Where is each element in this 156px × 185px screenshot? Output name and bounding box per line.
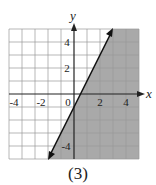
y-axis-label: y (68, 8, 76, 23)
x-tick-label: -4 (9, 96, 19, 108)
x-axis-label: x (145, 86, 152, 101)
x-tick-label: 4 (123, 96, 129, 108)
x-tick-label: 0 (65, 96, 71, 108)
y-tick-label: -4 (61, 140, 71, 152)
x-tick-label: -2 (36, 96, 45, 108)
y-axis-arrow-icon (71, 23, 77, 31)
y-tick-label: 2 (64, 62, 70, 74)
y-tick-label: 4 (64, 36, 70, 48)
x-tick-label: 2 (97, 96, 103, 108)
x-axis-arrow-icon (137, 91, 145, 97)
figure-caption: (3) (0, 164, 156, 184)
graph: x y -4 -2 0 2 4 4 2 -4 (0, 0, 156, 185)
